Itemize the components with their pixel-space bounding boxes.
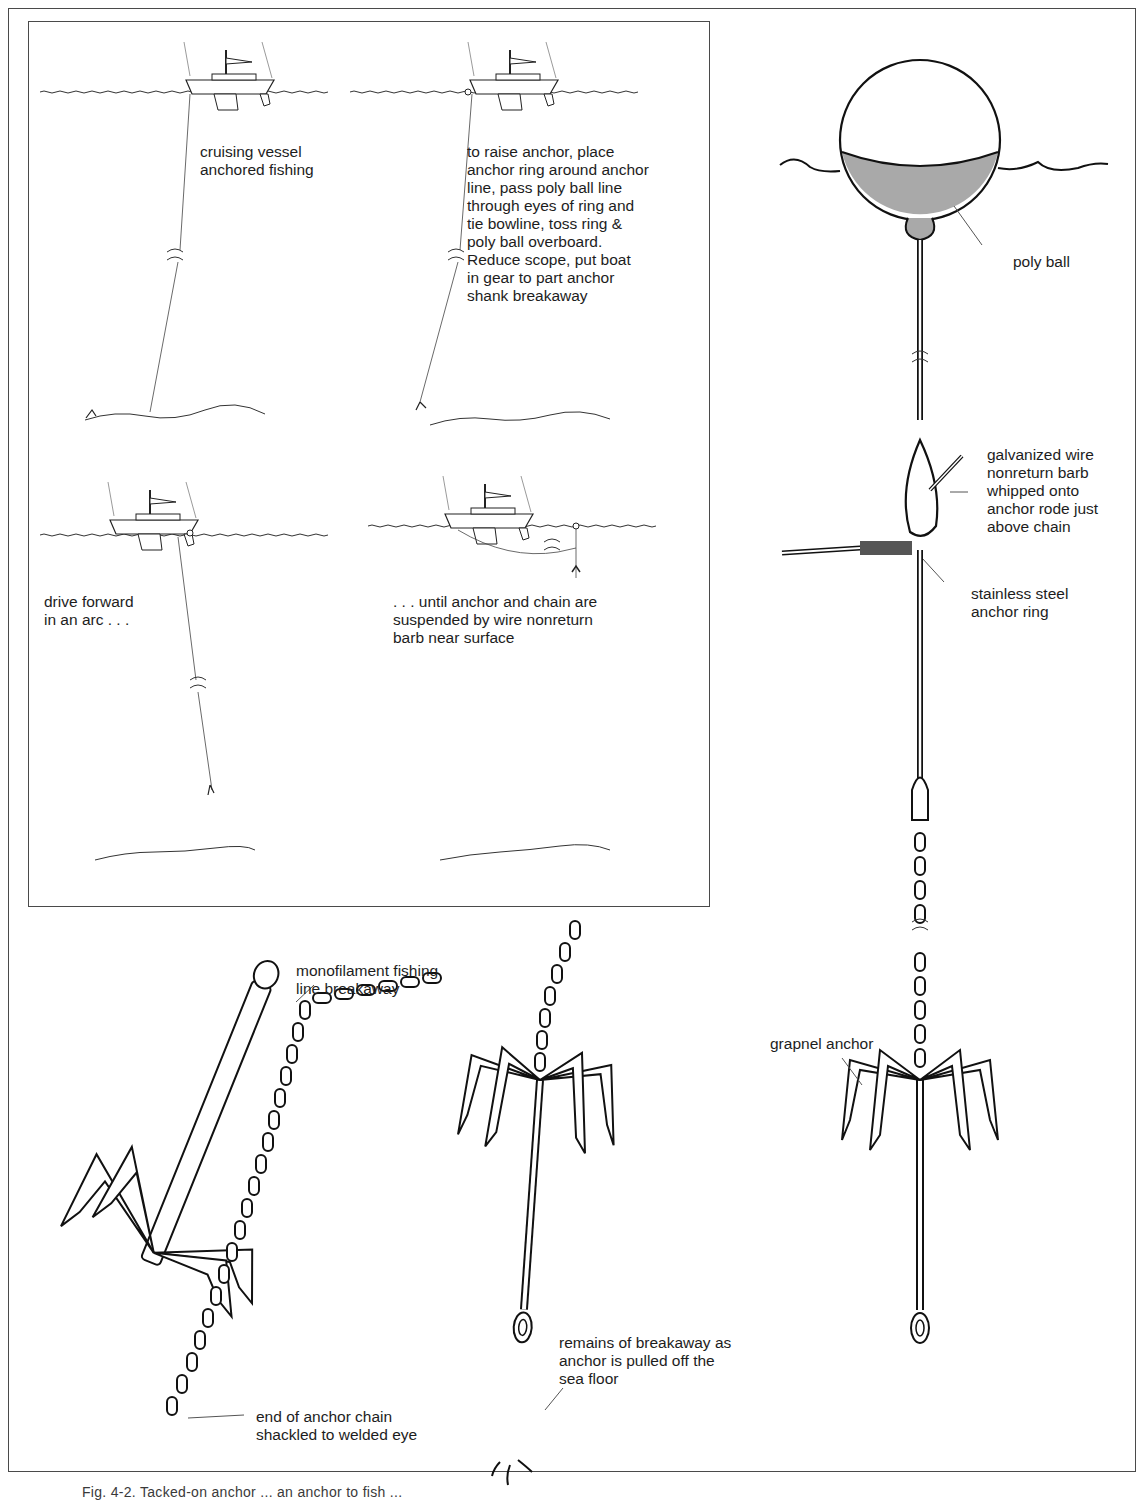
middle-grapnel-drawing — [444, 921, 620, 1485]
figure-caption: Fig. 4-2. Tacked-on anchor ... an anchor… — [82, 1484, 402, 1500]
panel-1-drawing — [40, 42, 328, 420]
callout-poly-ball: poly ball — [1013, 253, 1070, 271]
panel-4-drawing — [368, 476, 656, 860]
vertical-chain — [915, 833, 925, 1067]
callout-chain-shackled: end of anchor chain shackled to welded e… — [256, 1408, 417, 1444]
callout-breakaway-remains: remains of breakaway as anchor is pulled… — [559, 1334, 731, 1388]
callout-anchor-ring: stainless steel anchor ring — [971, 585, 1068, 621]
callout-grapnel-anchor: grapnel anchor — [770, 1035, 873, 1053]
callout-nonreturn-barb: galvanized wire nonreturn barb whipped o… — [987, 446, 1098, 536]
panel-4-label: . . . until anchor and chain are suspend… — [393, 593, 597, 647]
panel-3-label: drive forward in an arc . . . — [44, 593, 134, 629]
callout-monofilament-breakaway: monofilament fishing line breakaway — [296, 962, 438, 998]
panel-2-label: to raise anchor, place anchor ring aroun… — [467, 143, 649, 305]
panel-3-drawing — [40, 482, 328, 860]
panel-1-label: cruising vessel anchored fishing — [200, 143, 314, 179]
